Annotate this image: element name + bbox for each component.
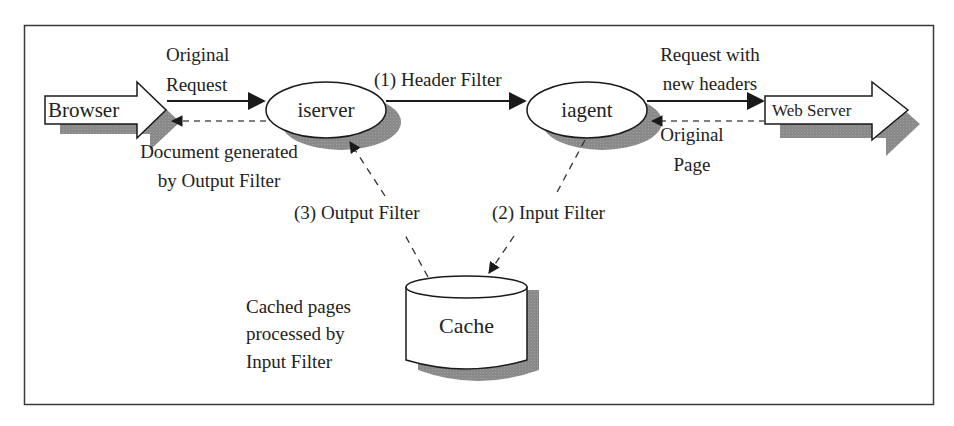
cache-note-line3: Input Filter: [246, 348, 332, 375]
diagram-canvas: Browser iserver iagent Web Server Cache …: [0, 0, 954, 426]
browser-label: Browser: [48, 97, 138, 123]
request-new-headers-label-line1: Request with: [640, 41, 780, 69]
edge-input-filter-lower: [489, 236, 514, 273]
iserver-label: iserver: [266, 97, 386, 123]
output-filter-label: (3) Output Filter: [294, 199, 420, 227]
cache-note-line2: processed by: [246, 320, 345, 347]
original-request-label-line2: Request: [166, 71, 227, 99]
cache-top: [406, 276, 527, 298]
original-page-label-line1: Original: [644, 121, 740, 149]
document-generated-label-line1: Document generated: [108, 138, 330, 166]
original-page-label-line2: Page: [644, 151, 740, 179]
web-server-label: Web Server: [772, 98, 882, 124]
original-request-label-line1: Original: [166, 41, 229, 69]
cache-note-line1: Cached pages: [246, 293, 351, 320]
edge-input-filter-upper: [555, 140, 585, 196]
input-filter-label: (2) Input Filter: [492, 199, 605, 227]
iagent-label: iagent: [527, 97, 647, 123]
cache-label: Cache: [406, 313, 527, 339]
document-generated-label-line2: by Output Filter: [108, 167, 330, 195]
diagram-svg: [0, 0, 954, 426]
header-filter-label: (1) Header Filter: [374, 66, 502, 94]
request-new-headers-label-line2: new headers: [640, 70, 780, 98]
edge-output-filter-upper: [350, 142, 385, 196]
edge-output-filter-lower: [405, 235, 428, 277]
cache-shadow-side: [527, 290, 539, 370]
